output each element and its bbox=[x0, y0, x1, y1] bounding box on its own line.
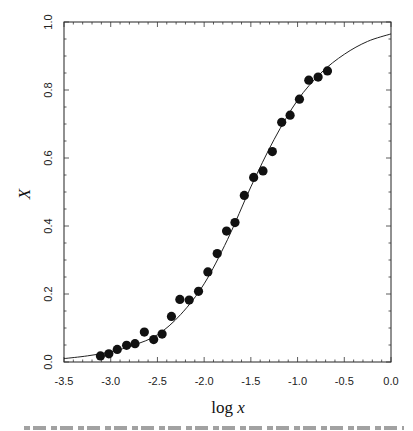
data-point bbox=[323, 66, 332, 75]
data-point bbox=[149, 335, 158, 344]
data-point bbox=[167, 312, 176, 321]
x-tick-label: 0.0 bbox=[383, 375, 398, 387]
x-tick-label: -2.5 bbox=[148, 375, 167, 387]
y-tick-label: 0.6 bbox=[42, 150, 54, 165]
y-tick-labels: 0.00.20.40.60.81.0 bbox=[42, 14, 54, 369]
data-point bbox=[122, 341, 131, 350]
data-point bbox=[203, 267, 212, 276]
data-point bbox=[314, 72, 323, 81]
figure-caption-cropped bbox=[0, 423, 413, 431]
fitted-curve bbox=[64, 34, 391, 359]
y-tick-label: 0.0 bbox=[42, 354, 54, 369]
y-axis-title: X bbox=[15, 188, 34, 200]
plot-frame bbox=[64, 22, 391, 362]
x-tick-label: -3.5 bbox=[55, 375, 74, 387]
data-point bbox=[96, 351, 105, 360]
data-point bbox=[104, 349, 113, 358]
data-point bbox=[304, 76, 313, 85]
data-point bbox=[185, 296, 194, 305]
chart: -3.5-3.0-2.5-2.0-1.5-1.0-0.50.0 0.00.20.… bbox=[0, 0, 413, 431]
data-point bbox=[258, 166, 267, 175]
data-point bbox=[249, 173, 258, 182]
x-tick-label: -0.5 bbox=[335, 375, 354, 387]
x-tick-label: -1.0 bbox=[288, 375, 307, 387]
y-tick-label: 0.4 bbox=[42, 218, 54, 233]
x-tick-label: -3.0 bbox=[101, 375, 120, 387]
data-point bbox=[268, 147, 277, 156]
data-point bbox=[194, 287, 203, 296]
caption-text-line bbox=[24, 426, 404, 430]
data-point bbox=[130, 339, 139, 348]
data-point bbox=[140, 327, 149, 336]
y-tick-label: 1.0 bbox=[42, 14, 54, 29]
axis-ticks bbox=[64, 22, 391, 362]
x-axis-title: log x bbox=[211, 398, 245, 417]
y-tick-label: 0.2 bbox=[42, 286, 54, 301]
data-point bbox=[295, 95, 304, 104]
x-tick-labels: -3.5-3.0-2.5-2.0-1.5-1.0-0.50.0 bbox=[55, 375, 399, 387]
data-point bbox=[213, 249, 222, 258]
data-point bbox=[175, 295, 184, 304]
x-tick-label: -2.0 bbox=[195, 375, 214, 387]
y-tick-label: 0.8 bbox=[42, 82, 54, 97]
data-point bbox=[285, 111, 294, 120]
x-tick-label: -1.5 bbox=[241, 375, 260, 387]
data-points bbox=[96, 66, 332, 360]
data-point bbox=[230, 218, 239, 227]
data-point bbox=[277, 118, 286, 127]
data-point bbox=[240, 191, 249, 200]
data-point bbox=[158, 330, 167, 339]
data-point bbox=[222, 227, 231, 236]
data-point bbox=[113, 345, 122, 354]
